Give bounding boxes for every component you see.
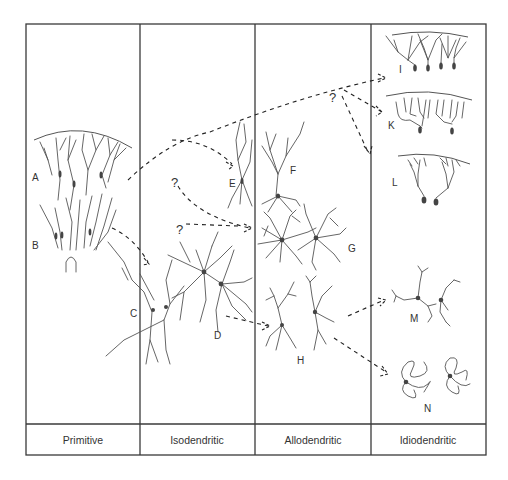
label-g: G xyxy=(348,243,356,254)
arrow-a-to-i xyxy=(128,78,384,180)
label-m: M xyxy=(410,313,418,324)
neuron-c: C xyxy=(106,242,184,364)
neuron-m: M xyxy=(392,266,460,326)
neuron-d: D xyxy=(168,232,252,341)
label-k: K xyxy=(388,120,395,131)
neuron-g: G xyxy=(258,204,356,270)
column-labels: Primitive Isodendritic Allodendritic Idi… xyxy=(63,434,456,446)
label-c: C xyxy=(130,308,137,319)
label-n: N xyxy=(424,403,431,414)
uncertain-marker-2: ? xyxy=(171,175,178,190)
label-d: D xyxy=(214,330,221,341)
arrow-to-e xyxy=(172,140,232,164)
table-frame xyxy=(26,24,486,455)
arrow-to-l xyxy=(342,96,368,152)
arrow-q2-to-g xyxy=(186,224,238,226)
neuron-a: A xyxy=(32,131,132,210)
arrow-q1-to-g xyxy=(178,186,250,228)
arrow-d-to-h xyxy=(226,316,268,326)
neuron-i: I xyxy=(386,32,468,75)
neuron-l: L xyxy=(392,154,470,205)
evolution-arrows: ? ? ? xyxy=(112,74,388,376)
arrow-h-to-m xyxy=(348,300,384,316)
label-l: L xyxy=(392,177,398,188)
neuron-k: K xyxy=(386,92,472,135)
column-label-isodendritic: Isodendritic xyxy=(170,434,224,446)
dendritic-classification-diagram: Primitive Isodendritic Allodendritic Idi… xyxy=(0,0,508,480)
arrow-to-k xyxy=(344,90,382,112)
neuron-b: B xyxy=(32,194,116,272)
label-i: I xyxy=(399,64,402,75)
column-label-idiodendritic: Idiodendritic xyxy=(400,434,457,446)
uncertain-marker-3: ? xyxy=(176,222,183,237)
column-label-primitive: Primitive xyxy=(63,434,103,446)
arrow-b-to-c xyxy=(112,228,148,262)
neuron-f: F xyxy=(262,122,304,212)
uncertain-marker-1: ? xyxy=(329,90,336,105)
label-f: F xyxy=(290,165,296,176)
column-label-allodendritic: Allodendritic xyxy=(284,434,341,446)
label-b: B xyxy=(32,240,39,251)
label-e: E xyxy=(229,178,236,189)
neuron-n: N xyxy=(401,358,470,414)
label-a: A xyxy=(32,172,39,183)
label-h: H xyxy=(297,355,304,366)
arrow-h-to-n xyxy=(334,338,386,372)
neuron-h: H xyxy=(266,276,334,366)
